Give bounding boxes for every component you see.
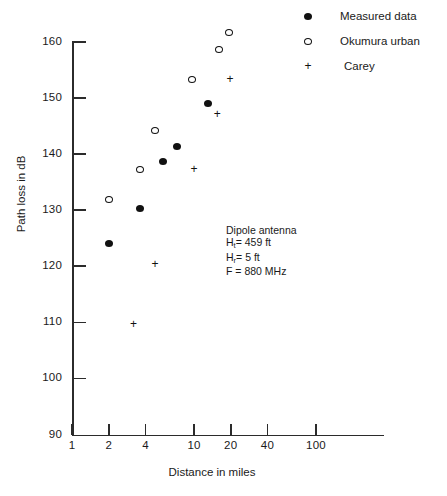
data-point-plus bbox=[151, 260, 160, 269]
x-axis-tick bbox=[71, 424, 73, 435]
legend-marker-plus bbox=[304, 62, 313, 71]
x-axis-tick bbox=[108, 424, 110, 435]
x-axis-tick-label: 40 bbox=[247, 440, 287, 452]
data-point-open-circle bbox=[105, 196, 113, 203]
y-axis-tick bbox=[72, 41, 86, 43]
y-axis-tick-label: 110 bbox=[22, 316, 62, 328]
legend-marker-filled-circle bbox=[304, 13, 312, 20]
y-axis-tick-label: 100 bbox=[22, 372, 62, 384]
annotation-line-ht: Ht= 459 ft bbox=[226, 236, 297, 250]
x-axis-title: Distance in miles bbox=[92, 466, 332, 478]
y-axis-tick-label: 140 bbox=[22, 148, 62, 160]
annotation-line-antenna: Dipole antenna bbox=[226, 224, 297, 236]
x-axis-tick bbox=[230, 424, 232, 435]
legend-marker-open-circle bbox=[304, 38, 312, 45]
y-axis-tick bbox=[72, 378, 86, 380]
annotation-line-hr: Hr= 5 ft bbox=[226, 251, 297, 265]
x-axis-tick-label: 1 bbox=[52, 440, 92, 452]
x-axis-tick bbox=[193, 424, 195, 435]
legend-label: Measured data bbox=[340, 10, 417, 22]
x-axis-tick-label: 2 bbox=[89, 440, 129, 452]
data-point-open-circle bbox=[151, 127, 159, 134]
y-axis-tick-label: 90 bbox=[22, 429, 62, 441]
y-axis-tick bbox=[72, 322, 86, 324]
data-point-plus bbox=[213, 110, 222, 119]
y-axis-tick bbox=[72, 209, 86, 211]
y-axis-tick-label: 150 bbox=[22, 92, 62, 104]
annotation-line-frequency: F = 880 MHz bbox=[226, 265, 297, 277]
data-point-open-circle bbox=[215, 46, 223, 53]
data-point-plus bbox=[225, 75, 234, 84]
data-point-open-circle bbox=[188, 76, 196, 83]
chart-legend: Measured dataOkumura urbanCarey bbox=[300, 8, 440, 83]
y-axis-tick-label: 120 bbox=[22, 260, 62, 272]
data-point-filled-circle bbox=[105, 240, 113, 247]
data-point-plus bbox=[129, 320, 138, 329]
x-axis-tick-label: 4 bbox=[125, 440, 165, 452]
scatter-chart: 90100110120130140150160 124102040100 Pat… bbox=[0, 0, 447, 496]
legend-label: Okumura urban bbox=[340, 35, 420, 47]
x-axis-line bbox=[72, 435, 384, 437]
chart-annotation: Dipole antenna Ht= 459 ft Hr= 5 ft F = 8… bbox=[226, 224, 297, 278]
x-axis-tick bbox=[145, 424, 147, 435]
data-point-plus bbox=[190, 165, 199, 174]
y-axis-tick bbox=[72, 153, 86, 155]
x-axis-tick-label: 100 bbox=[296, 440, 336, 452]
data-point-filled-circle bbox=[136, 205, 144, 212]
data-point-filled-circle bbox=[204, 100, 212, 107]
data-point-open-circle bbox=[225, 29, 233, 36]
y-axis-tick-label: 130 bbox=[22, 204, 62, 216]
y-axis-tick bbox=[72, 265, 86, 267]
x-axis-tick bbox=[267, 424, 269, 435]
x-axis-tick-label: 10 bbox=[174, 440, 214, 452]
data-point-filled-circle bbox=[159, 158, 167, 165]
y-axis-tick-label: 160 bbox=[22, 36, 62, 48]
legend-label: Carey bbox=[344, 60, 375, 72]
legend-item: Measured data bbox=[300, 8, 440, 33]
x-axis-tick bbox=[315, 424, 317, 435]
x-axis-tick-label: 20 bbox=[211, 440, 251, 452]
data-point-filled-circle bbox=[173, 143, 181, 150]
y-axis-tick bbox=[72, 97, 86, 99]
legend-item: Okumura urban bbox=[300, 33, 440, 58]
legend-item: Carey bbox=[300, 58, 440, 83]
y-axis-title: Path loss in dB bbox=[15, 129, 27, 259]
data-point-open-circle bbox=[136, 166, 144, 173]
